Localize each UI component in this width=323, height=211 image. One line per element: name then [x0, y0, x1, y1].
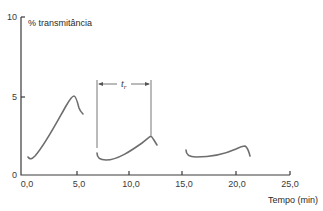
y-axis-title: % transmitância: [28, 18, 92, 28]
axes: [21, 17, 290, 175]
chromatogram-chart: 10 5 0 0,0 5,0 10,0 15,0 20,0 25,0 % tra…: [0, 0, 323, 211]
arrow-left-icon: [98, 82, 103, 86]
peak-2-curve: [97, 136, 157, 160]
peak-3-curve: [186, 146, 250, 157]
y-tick-label-10: 10: [7, 12, 17, 22]
y-tick-label-0: 0: [12, 170, 17, 180]
tr-label: tr: [121, 78, 127, 91]
x-tick-label-0: 0,0: [21, 179, 34, 189]
x-tick-label-20: 20,0: [228, 179, 246, 189]
peak-1-curve: [28, 96, 83, 159]
tr-bracket: tr: [98, 78, 150, 91]
y-tick-label-5: 5: [12, 92, 17, 102]
x-tick-label-15: 15,0: [175, 179, 193, 189]
x-tick-label-25: 25,0: [281, 179, 299, 189]
arrow-right-icon: [145, 82, 150, 86]
x-tick-label-5: 5,0: [73, 179, 86, 189]
x-axis-title: Tempo (min): [268, 195, 318, 205]
x-tick-label-10: 10,0: [122, 179, 140, 189]
